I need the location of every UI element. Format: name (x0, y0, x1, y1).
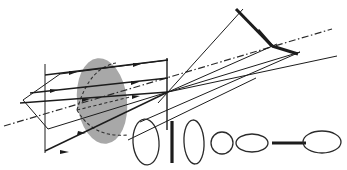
ray-lower-long (140, 52, 300, 122)
cross-section-wide-ellipse-2 (303, 131, 341, 153)
cross-section-tall-ellipse-1 (131, 118, 160, 166)
outgoing-rays-group (128, 9, 337, 140)
arrowhead-8 (60, 150, 69, 154)
ray-crossing-up (158, 9, 243, 103)
optical-axis-group (4, 29, 332, 126)
cross-section-tall-ellipse-2 (183, 120, 205, 165)
optical-ray-diagram (0, 0, 347, 170)
ray-outgoing-b (168, 44, 277, 92)
arrowhead-6 (132, 95, 140, 99)
cross-section-circle (211, 132, 233, 154)
beam-envelope-triangle (236, 9, 298, 54)
diagram-canvas (0, 0, 347, 170)
optical-axis (4, 29, 332, 126)
envelope-edge-down (258, 30, 272, 46)
envelope-edge-right (272, 46, 298, 54)
cross-section-series (131, 118, 341, 166)
ray-outgoing-c (168, 56, 337, 92)
cross-section-wide-ellipse-1 (236, 134, 268, 152)
